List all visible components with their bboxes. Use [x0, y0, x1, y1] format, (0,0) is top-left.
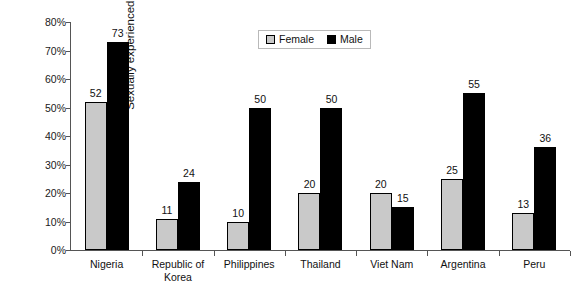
legend-label-female: Female [279, 34, 314, 45]
bar-group: 2050 [285, 22, 356, 250]
y-axis-tick-label: 30% [32, 160, 66, 170]
y-axis-tick-label: 0% [32, 245, 66, 255]
bar-value-label: 20 [364, 179, 398, 190]
bar-male [249, 108, 271, 251]
bar-female [512, 213, 534, 250]
chart-legend: Female Male [258, 30, 371, 49]
bar-group: 1050 [214, 22, 285, 250]
bar-group: 1336 [499, 22, 570, 250]
bar-male [107, 42, 129, 250]
y-axis-tick-label: 20% [32, 188, 66, 198]
bar-chart: Sexually experienced young people 80%70%… [0, 0, 587, 294]
y-axis-tick-label: 50% [32, 103, 66, 113]
x-axis-tick-mark [427, 251, 428, 256]
bar-male [320, 108, 342, 251]
legend-item-male: Male [327, 34, 363, 45]
x-axis-tick-mark [285, 251, 286, 256]
bar-female [227, 222, 249, 251]
bar-female [85, 102, 107, 250]
x-axis-tick-mark [214, 251, 215, 256]
category-label-line: Peru [489, 258, 580, 271]
bar-value-label: 24 [172, 168, 206, 179]
male-swatch-icon [327, 35, 336, 44]
bar-male [392, 207, 414, 250]
female-swatch-icon [266, 35, 275, 44]
bar-male [534, 147, 556, 250]
y-axis-tick-labels: 80%70%60%50%40%30%20%10%0% [32, 0, 66, 294]
bar-male [178, 182, 200, 250]
legend-item-female: Female [266, 34, 314, 45]
bar-value-label: 36 [528, 133, 562, 144]
x-axis-tick-mark [499, 251, 500, 256]
x-axis-tick-mark [142, 251, 143, 256]
bar-value-label: 55 [457, 79, 491, 90]
x-axis-category-label: Peru [489, 258, 580, 271]
bar-value-label: 50 [314, 94, 348, 105]
bar-group: 2015 [356, 22, 427, 250]
bar-female [298, 193, 320, 250]
bar-female [156, 219, 178, 250]
x-axis-line [70, 250, 570, 251]
y-axis-tick-label: 10% [32, 217, 66, 227]
bar-group: 5273 [71, 22, 142, 250]
legend-label-male: Male [340, 34, 363, 45]
bar-male [463, 93, 485, 250]
y-axis-tick-label: 40% [32, 131, 66, 141]
y-axis-tick-label: 60% [32, 74, 66, 84]
bar-value-label: 50 [243, 94, 277, 105]
bar-group: 2555 [427, 22, 498, 250]
bar-group: 1124 [142, 22, 213, 250]
plot-area: 5273112410502050201525551336 [71, 22, 570, 250]
bar-value-label: 15 [386, 193, 420, 204]
x-axis-tick-mark [356, 251, 357, 256]
y-axis-tick-label: 80% [32, 17, 66, 27]
y-axis-tick-label: 70% [32, 46, 66, 56]
x-axis-tick-mark [570, 251, 571, 256]
category-label-line: Korea [132, 271, 223, 284]
y-axis-tick-mark [66, 250, 71, 251]
bar-female [441, 179, 463, 250]
bar-value-label: 73 [101, 28, 135, 39]
